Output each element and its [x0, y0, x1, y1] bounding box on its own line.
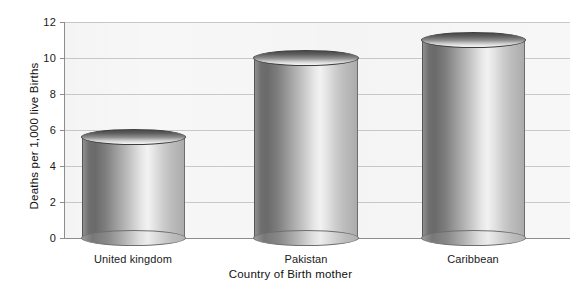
ytick-mark-0 [60, 238, 64, 239]
bar-united-kingdom [82, 137, 185, 238]
ytick-mark-2 [60, 202, 64, 203]
cylinder-bar-chart: 12 10 8 6 4 2 0 Deaths per 1,000 live Bi… [0, 0, 581, 295]
ytick-mark-4 [60, 166, 64, 167]
bar-base-ellipse [253, 230, 359, 246]
bar-base-ellipse [81, 230, 186, 246]
bar-top-ellipse [81, 129, 186, 145]
bar-body [254, 58, 358, 238]
xtick-label-pakistan: Pakistan [285, 253, 328, 265]
ytick-mark-8 [60, 94, 64, 95]
bar-caribbean [422, 40, 525, 238]
bar-body [82, 137, 185, 238]
x-axis-title: Country of Birth mother [0, 268, 581, 280]
xtick-label-caribbean: Caribbean [447, 253, 499, 265]
bar-top-ellipse [421, 32, 526, 48]
y-axis-title: Deaths per 1,000 live Births [28, 36, 40, 236]
bar-body [422, 40, 525, 238]
gridline-12 [64, 22, 570, 23]
xtick-label-united-kingdom: United kingdom [94, 253, 172, 265]
ytick-mark-6 [60, 130, 64, 131]
ytick-mark-12 [60, 22, 64, 23]
bar-top-ellipse [253, 50, 359, 66]
ytick-mark-10 [60, 58, 64, 59]
ytick-label-12: 12 [16, 16, 56, 28]
y-axis-line [64, 22, 65, 239]
bar-base-ellipse [421, 230, 526, 246]
bar-pakistan [254, 58, 358, 238]
